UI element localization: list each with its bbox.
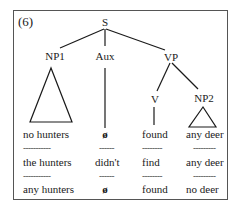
node-np1: NP1 (45, 50, 65, 62)
node-aux: Aux (96, 50, 115, 62)
branch-s-vp (106, 29, 165, 50)
example-number: (6) (18, 16, 33, 28)
node-v: V (151, 93, 159, 105)
separator-v: -------- (142, 144, 162, 152)
node-vp: VP (164, 51, 178, 63)
row3-np2: no deer (186, 183, 219, 195)
np2-triangle (189, 107, 216, 127)
separator-v: -------- (142, 172, 162, 180)
branch-vp-v (157, 63, 170, 91)
separator-aux: ------ (99, 144, 114, 152)
row2-v: find (142, 156, 160, 168)
row1-np1: no hunters (23, 128, 69, 140)
row3-np1: any hunters (23, 183, 74, 195)
np1-triangle (30, 68, 72, 122)
node-np2: NP2 (194, 92, 214, 104)
branch-s-np1 (60, 29, 104, 48)
row2-np2: any deer (186, 156, 224, 168)
row3-v: found (142, 183, 168, 195)
separator-np1: ----------- (23, 144, 50, 152)
separator-np2: --------- (193, 144, 215, 152)
branch-vp-np2 (172, 63, 198, 89)
row2-aux: didn't (95, 156, 120, 168)
row1-np2: any deer (186, 128, 224, 140)
row1-v: found (142, 128, 168, 140)
row1-aux: ø (102, 128, 108, 140)
row2-np1: the hunters (23, 156, 72, 168)
separator-np1: ----------- (23, 172, 50, 180)
row3-aux: ø (102, 183, 108, 195)
separator-np2: --------- (193, 172, 215, 180)
separator-aux: ------ (99, 172, 114, 180)
node-s: S (102, 16, 108, 28)
